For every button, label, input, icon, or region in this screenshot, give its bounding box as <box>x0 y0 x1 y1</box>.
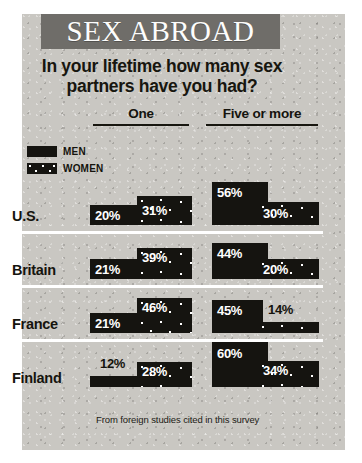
column-header-one: One <box>93 106 189 126</box>
bar-women-one: 31% <box>137 196 192 225</box>
bar-value-men-five: 60% <box>212 346 247 361</box>
row-label-country: France <box>12 316 58 332</box>
bar-value-men-one: 12% <box>100 356 125 371</box>
bar-value-women-five: 20% <box>258 262 293 277</box>
row-label-country: Finland <box>12 370 61 386</box>
column-header-rule <box>93 124 189 126</box>
bar-value-women-five: 34% <box>258 363 293 378</box>
legend-swatch-women-icon <box>27 163 57 174</box>
bar-value-women-five: 14% <box>268 302 293 317</box>
bar-value-women-one: 31% <box>137 203 172 218</box>
bar-women-one: 28% <box>137 362 192 387</box>
bar-women-five: 34% <box>258 361 319 387</box>
bar-women-one: 39% <box>137 248 192 279</box>
table-row: U.S. 20% 31% 56% 30% <box>0 180 323 234</box>
bar-value-men-five: 44% <box>212 246 247 261</box>
column-header-rule <box>206 124 318 126</box>
bar-women-five: 20% <box>258 259 319 279</box>
bar-men-one: 21% <box>90 313 143 333</box>
source-footnote: From foreign studies cited in this surve… <box>96 414 259 425</box>
table-row: Finland 12% 28% 60% 34% <box>0 342 323 393</box>
chart-rows: U.S. 20% 31% 56% 30% Britain 21% 39% 44%… <box>0 180 323 393</box>
bar-women-five: 30% <box>258 202 319 225</box>
bar-value-men-five: 45% <box>212 303 247 318</box>
bar-men-five: 45% <box>212 300 263 333</box>
bar-value-women-one: 39% <box>137 250 172 265</box>
table-row: France 21% 46% 45% 14% <box>0 288 323 342</box>
bar-value-men-five: 56% <box>212 185 247 200</box>
column-header-five-or-more: Five or more <box>206 106 318 126</box>
bar-men-one: 21% <box>90 259 143 279</box>
chart-title-band: SEX ABROAD <box>41 14 280 49</box>
bar-value-women-five: 30% <box>258 206 293 221</box>
legend-swatch-men-icon <box>27 146 57 157</box>
legend-item-men: MEN <box>27 144 103 158</box>
column-headers: One Five or more <box>0 106 323 136</box>
bar-men-one <box>90 376 143 387</box>
chart-subtitle: In your lifetime how many sex partners h… <box>12 56 312 96</box>
bar-value-men-one: 21% <box>90 262 125 277</box>
bar-men-one: 20% <box>90 205 143 225</box>
bar-value-men-one: 20% <box>90 208 125 223</box>
bar-women-five <box>258 322 319 333</box>
legend-item-women: WOMEN <box>27 161 103 175</box>
row-label-country: Britain <box>12 262 56 278</box>
page-title: SEX ABROAD <box>67 17 255 46</box>
legend: MEN WOMEN <box>27 144 103 178</box>
bar-value-men-one: 21% <box>90 316 125 331</box>
table-row: Britain 21% 39% 44% 20% <box>0 234 323 288</box>
row-label-country: U.S. <box>12 208 39 224</box>
bar-value-women-one: 46% <box>137 300 172 315</box>
legend-label-men: MEN <box>63 146 86 157</box>
legend-label-women: WOMEN <box>63 163 103 174</box>
bar-value-women-one: 28% <box>137 364 172 379</box>
bar-women-one: 46% <box>137 298 192 333</box>
